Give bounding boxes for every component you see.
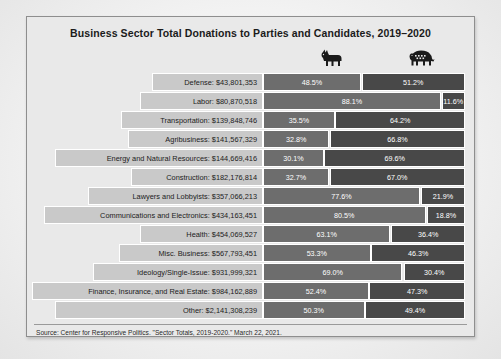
party-legend xyxy=(27,45,474,73)
row-label-bar: Construction: $182,176,814 xyxy=(131,168,263,186)
row-percent-track: 77.6%21.9% xyxy=(263,187,465,205)
democratic-segment: 63.1% xyxy=(263,225,390,243)
democratic-segment: 88.1% xyxy=(263,92,441,110)
republican-segment: 69.6% xyxy=(324,149,465,167)
republican-segment: 51.2% xyxy=(362,73,465,91)
democratic-segment: 52.4% xyxy=(263,282,369,300)
row-label-track: Agribusiness: $141,567,329 xyxy=(27,130,263,148)
row-percent-track: 32.7%67.0% xyxy=(263,168,465,186)
chart-row: Labor: $80,870,51888.1%11.6% xyxy=(27,92,474,110)
chart-row: Defense: $43,801,35348.5%51.2% xyxy=(27,73,474,91)
row-label-bar: Finance, Insurance, and Real Estate: $98… xyxy=(32,282,263,300)
republican-segment: 46.3% xyxy=(371,244,465,262)
chart-row: Other: $2,141,308,23950.3%49.4% xyxy=(27,301,474,319)
democratic-segment: 50.3% xyxy=(263,301,365,319)
row-label-bar: Energy and Natural Resources: $144,669,4… xyxy=(55,149,263,167)
democratic-segment: 69.0% xyxy=(263,263,402,281)
row-label-track: Lawyers and Lobbyists: $357,066,213 xyxy=(27,187,263,205)
row-percent-track: 63.1%36.4% xyxy=(263,225,465,243)
row-label-track: Ideology/Single-Issue: $931,999,321 xyxy=(27,263,263,281)
chart-row: Misc. Business: $567,793,45153.3%46.3% xyxy=(27,244,474,262)
chart-row: Transportation: $139,848,74635.5%64.2% xyxy=(27,111,474,129)
row-label-bar: Labor: $80,870,518 xyxy=(140,92,263,110)
republican-segment: 11.6% xyxy=(442,92,465,110)
row-label-bar: Lawyers and Lobbyists: $357,066,213 xyxy=(88,187,263,205)
row-label-bar: Communications and Electronics: $434,163… xyxy=(44,206,263,224)
democratic-segment: 80.5% xyxy=(263,206,426,224)
republican-segment: 18.8% xyxy=(427,206,465,224)
republican-segment: 36.4% xyxy=(391,225,465,243)
democratic-segment: 77.6% xyxy=(263,187,420,205)
row-percent-track: 35.5%64.2% xyxy=(263,111,465,129)
chart-figure: Business Sector Total Donations to Parti… xyxy=(26,16,475,337)
chart-row: Health: $454,069,52763.1%36.4% xyxy=(27,225,474,243)
democratic-segment: 48.5% xyxy=(263,73,361,91)
row-label-bar: Transportation: $139,848,746 xyxy=(121,111,263,129)
row-percent-track: 80.5%18.8% xyxy=(263,206,465,224)
row-label-track: Defense: $43,801,353 xyxy=(27,73,263,91)
row-percent-track: 30.1%69.6% xyxy=(263,149,465,167)
chart-row: Finance, Insurance, and Real Estate: $98… xyxy=(27,282,474,300)
elephant-icon xyxy=(399,47,443,73)
chart-row: Agribusiness: $141,567,32932.8%66.8% xyxy=(27,130,474,148)
democratic-segment: 32.8% xyxy=(263,130,329,148)
row-label-track: Energy and Natural Resources: $144,669,4… xyxy=(27,149,263,167)
row-percent-track: 50.3%49.4% xyxy=(263,301,465,319)
republican-segment: 64.2% xyxy=(335,111,465,129)
row-label-bar: Health: $454,069,527 xyxy=(140,225,263,243)
source-note: Source: Center for Responsive Politics. … xyxy=(36,329,467,336)
republican-segment: 49.4% xyxy=(365,301,465,319)
row-label-track: Labor: $80,870,518 xyxy=(27,92,263,110)
chart-title: Business Sector Total Donations to Parti… xyxy=(27,17,474,40)
source-divider: Source: Center for Responsive Politics. … xyxy=(34,324,467,336)
chart-row: Ideology/Single-Issue: $931,999,32169.0%… xyxy=(27,263,474,281)
democratic-segment: 53.3% xyxy=(263,244,371,262)
row-label-bar: Misc. Business: $567,793,451 xyxy=(119,244,263,262)
republican-segment: 67.0% xyxy=(330,168,465,186)
chart-row: Construction: $182,176,81432.7%67.0% xyxy=(27,168,474,186)
row-label-track: Transportation: $139,848,746 xyxy=(27,111,263,129)
chart-rows: Defense: $43,801,35348.5%51.2%Labor: $80… xyxy=(27,73,474,320)
democratic-segment: 32.7% xyxy=(263,168,329,186)
row-percent-track: 48.5%51.2% xyxy=(263,73,465,91)
row-label-track: Other: $2,141,308,239 xyxy=(27,301,263,319)
row-percent-track: 53.3%46.3% xyxy=(263,244,465,262)
democratic-segment: 35.5% xyxy=(263,111,335,129)
row-label-bar: Defense: $43,801,353 xyxy=(152,73,263,91)
row-label-track: Finance, Insurance, and Real Estate: $98… xyxy=(27,282,263,300)
row-label-bar: Agribusiness: $141,567,329 xyxy=(128,130,263,148)
row-label-track: Health: $454,069,527 xyxy=(27,225,263,243)
row-label-track: Construction: $182,176,814 xyxy=(27,168,263,186)
donkey-icon xyxy=(309,47,353,73)
row-percent-track: 32.8%66.8% xyxy=(263,130,465,148)
chart-row: Energy and Natural Resources: $144,669,4… xyxy=(27,149,474,167)
democratic-segment: 30.1% xyxy=(263,149,324,167)
row-percent-track: 88.1%11.6% xyxy=(263,92,465,110)
row-percent-track: 52.4%47.3% xyxy=(263,282,465,300)
row-percent-track: 69.0%30.4% xyxy=(263,263,465,281)
republican-segment: 21.9% xyxy=(421,187,465,205)
row-label-bar: Other: $2,141,308,239 xyxy=(55,301,263,319)
republican-segment: 66.8% xyxy=(330,130,465,148)
republican-segment: 47.3% xyxy=(369,282,465,300)
republican-segment: 30.4% xyxy=(404,263,465,281)
row-label-bar: Ideology/Single-Issue: $931,999,321 xyxy=(93,263,263,281)
chart-row: Communications and Electronics: $434,163… xyxy=(27,206,474,224)
row-label-track: Misc. Business: $567,793,451 xyxy=(27,244,263,262)
chart-row: Lawyers and Lobbyists: $357,066,21377.6%… xyxy=(27,187,474,205)
row-label-track: Communications and Electronics: $434,163… xyxy=(27,206,263,224)
